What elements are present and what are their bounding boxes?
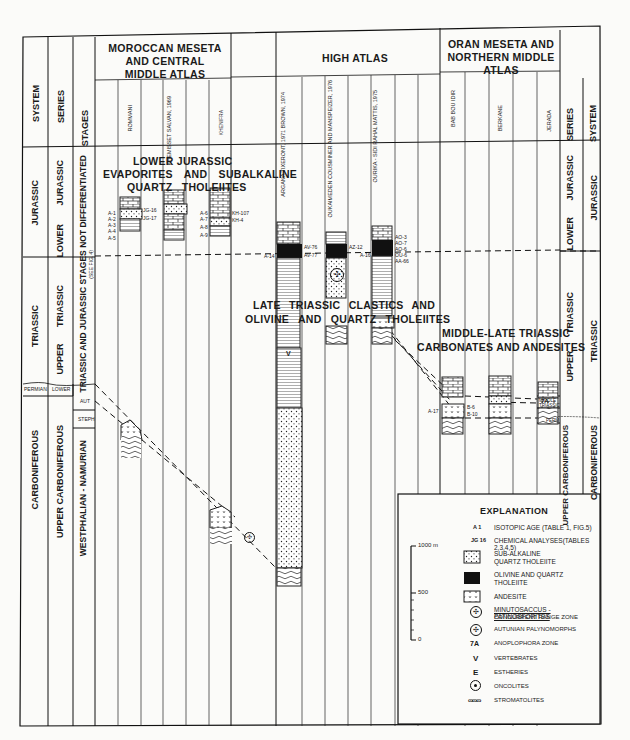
stages-see-fig: (SEE FIG. 4) — [88, 250, 94, 279]
region-moroccan-meseta: MOROCCAN MESETA AND CENTRAL MIDDLE ATLAS — [105, 42, 225, 81]
region-high-atlas: HIGH ATLAS — [300, 52, 410, 65]
sample-a4: A-4 — [108, 228, 116, 234]
system-triassic-left: TRIASSIC — [30, 305, 40, 347]
system-carboniferous-right: CARBONIFEROUS — [589, 425, 599, 500]
legend-symbol-anoplophora: 7A — [470, 640, 479, 647]
sample-a17: A-17 — [428, 408, 439, 414]
legend-symbol-isotopic: A 1 — [473, 524, 481, 530]
sample-b10: B-10 — [467, 411, 478, 417]
sample-aa66: AA-66 — [395, 258, 409, 264]
sample-kh107: KH-107 — [232, 210, 249, 216]
annot-olivine-quartz: OLIVINE AND QUARTZ THOLEIITES — [245, 313, 450, 326]
region-oran-meseta: ORAN MESETA AND NORTHERN MIDDLE ATLAS — [442, 38, 560, 77]
sample-az12: AZ-12 — [349, 244, 363, 250]
section-jerada: JERADA — [546, 110, 552, 132]
legend-label-olivine: OLIVINE AND QUARTZ THOLEIITE — [494, 571, 574, 587]
autunian-pollen-icon: ✣ — [244, 532, 255, 543]
stage-autunian: AUT — [80, 398, 90, 404]
system-jurassic-right: JURASSIC — [589, 175, 599, 221]
annot-late-triassic: LATE TRIASSIC CLASTICS AND — [253, 299, 435, 312]
sample-a8: A-8 — [200, 224, 208, 230]
section-rommani: ROMMANI — [127, 105, 133, 132]
series-perm-right: PERM — [546, 418, 559, 423]
legend-label-anoplophora: ANOPLOPHORA ZONE — [494, 640, 558, 646]
legend-label-concurrent: CONCURRENT RANGE ZONE — [494, 614, 578, 620]
section-ourika: OURIKA - SIDI RAHAL MATTIS, 1975 — [372, 90, 392, 183]
legend-label-stromatolites: STROMATOLITES — [494, 697, 544, 703]
legend-label-autunian: AUTUNIAN PALYNOMORPHS — [494, 626, 576, 632]
sample-a5: A-5 — [108, 235, 116, 241]
header-series-right: SERIES — [565, 108, 575, 141]
stages-undifferentiated: TRIASSIC AND JURASSIC STAGES NOT DIFFERE… — [78, 155, 88, 392]
sample-jg16: JG-16 — [143, 207, 157, 213]
legend-symbol-chemical: JG 16 — [471, 537, 486, 543]
legend-label-subalkaline: SUB-ALKALINE QUARTZ THOLEIITE — [494, 550, 564, 566]
header-stages-left: STAGES — [80, 110, 90, 146]
annot-evaporites: EVAPORITES AND SUBALKALINE — [103, 168, 297, 181]
section-argana: ARGANA TIXERONT, 1971 BROWN, 1974 — [280, 92, 300, 197]
legend: EXPLANATION 1000 m 500 0 A 1 ISOTOPIC AG… — [398, 494, 600, 724]
system-triassic-right: TRIASSIC — [589, 320, 599, 362]
legend-symbol-estheries: E — [473, 668, 478, 677]
legend-label-vertebrates: VERTEBRATES — [494, 655, 537, 661]
header-system-left: SYSTEM — [31, 85, 41, 122]
scale-mid: 500 — [418, 589, 428, 595]
stage-westphalian-namurian: WESTPHALIAN - NAMURIAN — [78, 440, 88, 556]
system-jurassic-left: JURASSIC — [30, 180, 40, 226]
legend-label-isotopic: ISOTOPIC AGE (TABLE 1, FIG.5) — [494, 524, 592, 531]
sample-a9: A-9 — [200, 232, 208, 238]
annot-lower-jurassic: LOWER JURASSIC — [133, 155, 232, 168]
legend-symbol-vertebrates: V — [473, 654, 478, 663]
sample-av77: AV-77 — [304, 252, 317, 258]
legend-autunian-icon: ✣ — [470, 624, 482, 636]
vertebrate-marker: V — [286, 350, 291, 357]
annot-quartz-tholeiites: QUARTZ THOLEIITES — [127, 181, 247, 194]
stage-stephanian: STEPH — [78, 416, 95, 422]
legend-label-andesite: ANDESITE — [494, 593, 527, 600]
series-upper-triassic-left: UPPER TRIASSIC — [55, 285, 65, 375]
legend-title: EXPLANATION — [480, 506, 548, 516]
anoplophora-marker: 7A — [541, 398, 549, 404]
sample-kh4: KH-4 — [232, 217, 243, 223]
legend-pollen-icon: ✣ — [470, 606, 482, 618]
section-bab-bou-idir: BAB BOU IDIR — [450, 90, 456, 127]
sample-jg17: JG-17 — [143, 215, 157, 221]
sample-av76: AV-76 — [304, 244, 317, 250]
legend-label-estheries: ESTHERIES — [494, 669, 528, 675]
stromatolite-icon: ɷɷɷ — [468, 697, 480, 703]
sample-a16: A-16 — [360, 252, 371, 258]
header-system-right: SYSTEM — [588, 105, 598, 142]
section-khenifra: KHENIFRA — [218, 110, 224, 135]
header-series-left: SERIES — [56, 90, 66, 123]
scale-bottom: 0 — [418, 636, 421, 642]
sample-a14: A-14 — [264, 253, 275, 259]
system-permian-left: PERMIAN — [24, 386, 47, 392]
legend-label-oncolites: ONCOLITES — [494, 683, 529, 689]
annot-middle-late-triassic: MIDDLE-LATE TRIASSIC — [442, 327, 570, 340]
sample-b6: B-6 — [467, 404, 475, 410]
scale-top: 1000 m — [418, 542, 438, 548]
section-oukaimeden: OUKAIMEDEN COUSMINER AND MANSPEIZER, 197… — [327, 80, 347, 218]
oncolite-icon — [470, 680, 481, 691]
sample-a7: A-7 — [200, 216, 208, 222]
annot-carbonates-andesites: CARBONATES AND ANDESITES — [417, 341, 585, 354]
pollen-icon: ✣ — [330, 268, 344, 282]
series-lower-jurassic-left: LOWER JURASSIC — [55, 160, 65, 258]
series-lower-permian-left: LOWER — [52, 386, 70, 392]
section-berkane: BERKANE — [497, 105, 503, 131]
system-carboniferous-left: CARBONIFEROUS — [30, 430, 40, 510]
series-lower-jurassic-right: LOWER JURASSIC — [565, 155, 575, 251]
legend-label-chemical: CHEMICAL ANALYSES(TABLES 2,3,4,5) — [494, 537, 600, 551]
series-upper-carboniferous-left: UPPER CARBONIFEROUS — [55, 425, 65, 538]
